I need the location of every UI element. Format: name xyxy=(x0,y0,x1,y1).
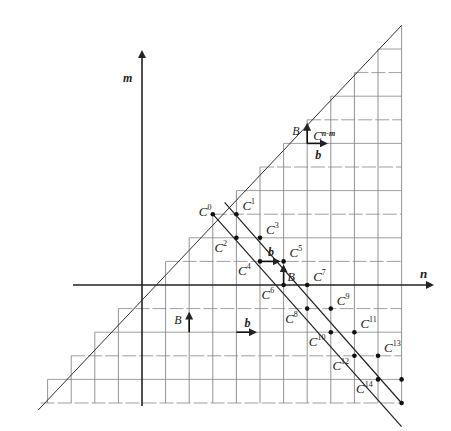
point-label: C5 xyxy=(290,244,303,260)
lattice-point xyxy=(211,212,216,217)
b-arrow-label: b xyxy=(244,316,250,330)
lattice-point xyxy=(376,377,381,382)
lattice-point xyxy=(258,236,263,241)
upper-diagonal xyxy=(225,202,402,403)
m-axis-label: m xyxy=(123,71,132,85)
lattice-point xyxy=(258,259,263,264)
point-label: C6 xyxy=(262,286,275,302)
lattice-point xyxy=(352,330,357,335)
lattice-point xyxy=(234,236,239,241)
point-label: C11 xyxy=(360,315,376,331)
lattice-point xyxy=(305,283,310,288)
point-label: C0 xyxy=(199,203,212,219)
lattice-diagram: bBBbBbCn-m C0C1C2C3C4C5C6C7C8C9C10C11C12… xyxy=(0,0,451,431)
lattice-point xyxy=(281,259,286,264)
cnm-label: Cn-m xyxy=(313,128,335,143)
lattice-point xyxy=(305,306,310,311)
boundary-diagonal xyxy=(38,25,401,410)
point-label: C12 xyxy=(332,357,349,373)
lattice-point xyxy=(329,330,334,335)
lattice-point xyxy=(281,283,286,288)
point-label: C13 xyxy=(384,339,401,355)
B-arrow-label: B xyxy=(292,124,300,138)
B-arrow-label: B xyxy=(288,270,296,284)
point-label: C9 xyxy=(337,292,350,308)
lattice-point xyxy=(399,377,404,382)
point-label: C7 xyxy=(313,268,326,284)
point-label: C4 xyxy=(238,262,251,278)
point-label: C2 xyxy=(214,239,227,255)
point-label: C1 xyxy=(242,197,255,213)
grid-lines xyxy=(38,25,401,410)
point-label: C3 xyxy=(266,221,279,237)
B-arrow-label: B xyxy=(174,313,182,327)
points: C0C1C2C3C4C5C6C7C8C9C10C11C12C13C14 xyxy=(199,197,404,405)
b-arrow-label: b xyxy=(315,148,321,162)
point-label: C14 xyxy=(356,380,373,396)
b-arrow-label: b xyxy=(268,245,274,259)
lattice-point xyxy=(329,306,334,311)
lattice-point xyxy=(376,354,381,359)
lattice-point xyxy=(399,401,404,406)
point-label: C10 xyxy=(309,333,326,349)
lattice-point xyxy=(352,354,357,359)
n-axis-label: n xyxy=(420,266,427,281)
lattice-point xyxy=(234,212,239,217)
point-label: C8 xyxy=(285,310,298,326)
